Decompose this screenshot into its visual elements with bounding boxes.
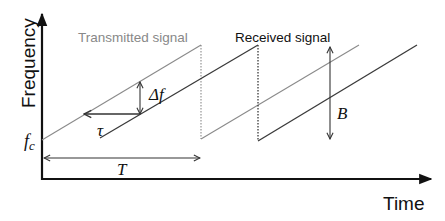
freq-shift-label: Δf bbox=[148, 85, 166, 104]
received-chirp-2 bbox=[258, 45, 417, 141]
transmitted-chirp-2 bbox=[201, 45, 359, 139]
y-axis-label: Frequency bbox=[18, 18, 39, 108]
received-signal-label: Received signal bbox=[235, 30, 330, 45]
received-signal bbox=[100, 45, 417, 141]
period-label: T bbox=[117, 160, 128, 179]
transmitted-signal bbox=[42, 45, 359, 140]
x-axis-label: Time bbox=[383, 193, 425, 214]
fmcw-diagram: Frequency Time Transmitted signal Receiv… bbox=[0, 0, 445, 221]
delay-label: τ bbox=[97, 121, 104, 140]
svg-text:fc: fc bbox=[24, 131, 35, 153]
carrier-frequency-label: fc bbox=[24, 131, 35, 153]
transmitted-signal-label: Transmitted signal bbox=[78, 30, 188, 45]
bandwidth-label: B bbox=[337, 104, 348, 123]
